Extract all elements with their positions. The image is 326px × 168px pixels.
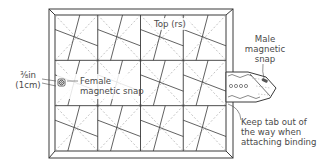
female-snap-line-1: Female	[80, 76, 144, 86]
male-snap-label: Male magnetic snap	[243, 34, 287, 65]
male-snap-line-1: Male	[243, 34, 287, 44]
top-rs-label: Top (rs)	[154, 19, 186, 29]
measurement-label: ⅜in (1cm)	[14, 70, 42, 90]
female-snap-label: Female magnetic snap	[80, 76, 144, 96]
tab-note-line-3: attaching binding	[241, 137, 317, 147]
male-snap-line-3: snap	[243, 54, 287, 64]
binding-tab	[226, 72, 276, 102]
tab-note-line-1: Keep tab out of	[241, 117, 317, 127]
male-snap-line-2: magnetic	[243, 44, 287, 54]
tab-note-label: Keep tab out of the way when attaching b…	[241, 117, 317, 148]
female-snap-line-2: magnetic snap	[80, 86, 144, 96]
measurement-cm: (1cm)	[14, 80, 42, 90]
measurement-inches: ⅜in	[14, 70, 42, 80]
tab-note-line-2: the way when	[241, 127, 317, 137]
